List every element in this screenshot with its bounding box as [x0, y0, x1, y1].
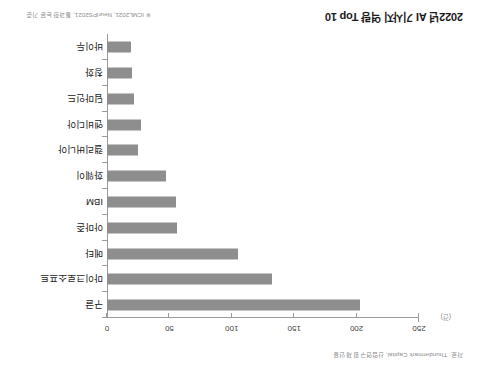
axis-unit-label: (건)	[441, 313, 451, 323]
category-tick	[102, 214, 107, 215]
bar-row: 바이두	[107, 34, 419, 60]
bar	[107, 196, 176, 207]
category-label: 아마존	[76, 221, 103, 235]
x-tick-label-0: 0	[105, 324, 109, 333]
category-tick	[102, 162, 107, 163]
category-tick	[102, 59, 107, 60]
category-label: 화웨이	[76, 169, 103, 183]
bar	[107, 145, 138, 156]
bar	[107, 248, 238, 259]
category-label: 구글	[85, 298, 103, 312]
category-tick	[102, 317, 107, 318]
bar-row: 구글	[107, 292, 419, 318]
bar	[107, 119, 141, 130]
category-tick	[102, 291, 107, 292]
x-tick-label-150: 150	[288, 324, 301, 333]
bar-row: 캘리버니아	[107, 137, 419, 163]
category-tick	[102, 240, 107, 241]
category-label: 엔비디아	[67, 118, 103, 132]
rotated-figure-canvas: 자료: Thundermark Capital, 산업연구원 재인용 (건) 2…	[0, 0, 491, 374]
category-label: 바이두	[76, 40, 103, 54]
x-tick-label-250: 250	[412, 324, 425, 333]
bar-row: 딥마인드	[107, 86, 419, 112]
category-label: 메타	[85, 247, 103, 261]
bar-row: IBM	[107, 189, 419, 215]
category-tick	[102, 111, 107, 112]
category-tick	[102, 188, 107, 189]
bar-row: 화웨이	[107, 163, 419, 189]
bar-row: 메타	[107, 241, 419, 267]
bar-row: 마이크로소프트	[107, 266, 419, 292]
bar-row: 아마존	[107, 215, 419, 241]
page-title: 2022년 AI 기사지 역량 Top 10	[325, 10, 463, 26]
x-tick-label-200: 200	[350, 324, 363, 333]
category-label: 캘리버니아	[58, 143, 103, 157]
category-label: 칭화	[85, 66, 103, 80]
bar	[107, 222, 177, 233]
x-tick-label-50: 50	[165, 324, 174, 333]
bar	[107, 67, 132, 78]
bar-row: 엔비디아	[107, 112, 419, 138]
category-label: 마이크로소프트	[40, 272, 103, 286]
x-tick-label-100: 100	[225, 324, 238, 333]
source-note: 자료: Thundermark Capital, 산업연구원 재인용	[333, 351, 463, 360]
category-label: IBM	[86, 196, 103, 207]
bar-rows: 구글마이크로소프트메타아마존IBM화웨이캘리버니아엔비디아딥마인드칭화바이두	[107, 34, 419, 318]
bar-chart-plot-area: (건) 250 200 150 100 50 0 구글마이크로소프트메타아마존I…	[107, 34, 419, 318]
bar	[107, 93, 134, 104]
category-tick	[102, 85, 107, 86]
bar	[107, 42, 131, 53]
category-label: 딥마인드	[67, 92, 103, 106]
bar-row: 칭화	[107, 60, 419, 86]
bar	[107, 274, 272, 285]
data-note: ※ ICML2021, NeurIPS2021, 통과한 논문 기준	[26, 11, 151, 20]
category-tick	[102, 265, 107, 266]
category-tick	[102, 136, 107, 137]
bar	[107, 300, 360, 311]
bar	[107, 171, 166, 182]
